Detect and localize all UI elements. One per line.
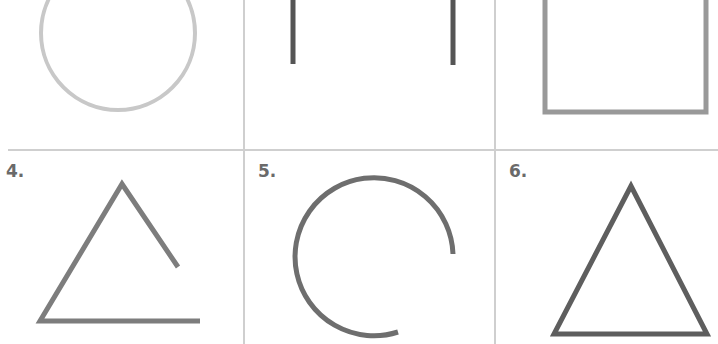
cell-3-rectangle: [545, 0, 706, 112]
cell-4-open-triangle: [40, 184, 200, 321]
cell-6-closed-triangle: [554, 186, 707, 334]
cell-1-closed-circle: [41, 0, 195, 110]
shapes-canvas: [0, 0, 718, 344]
cell-2-parallel-lines: [293, 0, 453, 65]
cell-5-open-circle: [295, 178, 453, 336]
